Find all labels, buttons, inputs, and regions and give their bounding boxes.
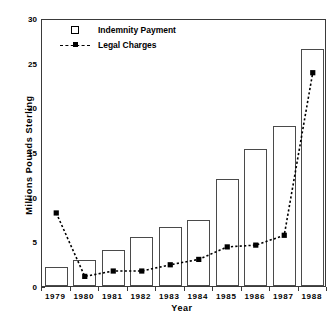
chart-container: Millions Pounds Sterling 051015202530 19… (0, 0, 332, 324)
data-point-marker: 1985: 4.6 (225, 244, 230, 249)
x-tick-mark (127, 287, 128, 291)
y-tick-label: 25 (15, 59, 37, 68)
x-tick-mark (98, 287, 99, 291)
y-tick-label: 15 (15, 149, 37, 158)
x-tick-mark (184, 287, 185, 291)
x-tick-mark (298, 287, 299, 291)
x-tick-mark (212, 287, 213, 291)
legend-item-indemnity-payment: Indemnity Payment (58, 22, 176, 37)
x-tick-mark (155, 287, 156, 291)
x-tick-mark (326, 287, 327, 291)
data-point-marker: 1980: 1.3 (82, 274, 87, 279)
data-point-marker: 1982: 1.9 (139, 268, 144, 273)
dashed-line-square-icon (58, 41, 92, 49)
open-square-icon (58, 26, 92, 34)
x-tick-mark (269, 287, 270, 291)
data-point-marker: 1987: 5.9 (282, 233, 287, 238)
y-tick-label: 0 (15, 283, 37, 292)
y-tick-label: 30 (15, 15, 37, 24)
line-series-legal-charges: 1979: 8.41980: 1.31981: 1.91982: 1.91983… (42, 20, 327, 288)
legend-item-legal-charges: Legal Charges (58, 37, 176, 52)
data-point-marker: 1988: 24.1 (310, 70, 315, 75)
x-tick-label: 1988 (292, 292, 332, 301)
data-point-marker: 1981: 1.9 (111, 268, 116, 273)
data-point-marker: 1986: 4.8 (253, 243, 258, 248)
chart-legend: Indemnity Payment Legal Charges (58, 22, 176, 52)
legend-label: Indemnity Payment (98, 25, 176, 35)
y-tick-label: 5 (15, 238, 37, 247)
x-tick-mark (241, 287, 242, 291)
data-point-marker: 1984: 3.2 (196, 257, 201, 262)
x-tick-mark (70, 287, 71, 291)
y-tick-label: 10 (15, 193, 37, 202)
x-tick-mark (41, 287, 42, 291)
x-axis-title: Year (34, 303, 330, 313)
data-point-marker: 1983: 2.6 (168, 262, 173, 267)
legend-label: Legal Charges (98, 40, 157, 50)
y-tick-label: 20 (15, 104, 37, 113)
legal-charges-line (56, 73, 313, 277)
plot-area: 1979: 8.41980: 1.31981: 1.91982: 1.91983… (41, 19, 326, 287)
data-point-marker: 1979: 8.4 (54, 210, 59, 215)
